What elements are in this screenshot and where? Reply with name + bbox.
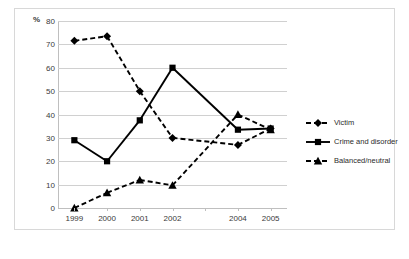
- y-tick-label-30: 30: [33, 133, 55, 142]
- diamond-marker: [305, 117, 331, 129]
- y-tick-label-20: 20: [33, 157, 55, 166]
- y-tick-label-0: 0: [33, 204, 55, 213]
- y-tick-label-50: 50: [33, 87, 55, 96]
- square-marker: [305, 136, 331, 148]
- x-tick-label-2005: 2005: [251, 214, 291, 223]
- y-tick-label-10: 10: [33, 180, 55, 189]
- series-line-victim: [74, 36, 107, 41]
- x-tick-mark-2003: [205, 208, 206, 211]
- series-line-balanced-neutral: [238, 115, 271, 130]
- x-axis-ticks: [58, 208, 287, 212]
- data-point-square-2001: [137, 117, 143, 123]
- series-line-balanced-neutral: [107, 180, 140, 193]
- triangle-marker: [305, 155, 331, 167]
- x-axis-tick-labels: 199920002001200220042005: [58, 214, 287, 226]
- series-line-crime-and-disorder: [107, 120, 140, 161]
- series-line-balanced-neutral: [140, 180, 173, 185]
- series-line-crime-and-disorder: [238, 129, 271, 130]
- x-tick-mark-2000: [107, 208, 108, 211]
- series-line-victim: [107, 36, 140, 91]
- legend-item-victim[interactable]: Victim: [305, 113, 393, 132]
- legend-label: Crime and disorder: [334, 137, 398, 146]
- x-tick-label-2002: 2002: [153, 214, 193, 223]
- series-line-balanced-neutral: [173, 115, 238, 186]
- series-layer: [58, 21, 287, 208]
- x-tick-mark-2005: [271, 208, 272, 211]
- data-point-diamond-2004: [234, 141, 242, 149]
- chart-legend: VictimCrime and disorderBalanced/neutral: [305, 113, 393, 170]
- x-tick-mark-1999: [74, 208, 75, 211]
- y-tick-label-40: 40: [33, 110, 55, 119]
- x-tick-mark-2001: [140, 208, 141, 211]
- series-line-balanced-neutral: [74, 193, 107, 208]
- x-tick-mark-2002: [173, 208, 174, 211]
- data-point-square-2000: [104, 158, 110, 164]
- series-line-victim: [140, 91, 173, 138]
- series-line-crime-and-disorder: [173, 68, 238, 130]
- series-line-victim: [173, 138, 238, 145]
- x-tick-mark-2004: [238, 208, 239, 211]
- series-line-crime-and-disorder: [140, 68, 173, 121]
- data-point-diamond-2000: [103, 32, 111, 40]
- data-point-square-2004: [235, 127, 241, 133]
- y-tick-label-70: 70: [33, 40, 55, 49]
- legend-item-balanced-neutral[interactable]: Balanced/neutral: [305, 151, 393, 170]
- series-line-crime-and-disorder: [74, 140, 107, 161]
- y-tick-label-80: 80: [33, 17, 55, 26]
- series-line-victim: [238, 129, 271, 145]
- data-point-triangle-2004: [234, 110, 242, 118]
- chart-figure: % 01020304050607080 19992000200120022004…: [14, 8, 395, 230]
- data-point-square-2002: [169, 65, 175, 71]
- plot-area: [58, 21, 287, 208]
- legend-label: Balanced/neutral: [334, 156, 390, 165]
- y-axis-tick-labels: 01020304050607080: [27, 21, 55, 208]
- legend-item-crime-and-disorder[interactable]: Crime and disorder: [305, 132, 393, 151]
- legend-label: Victim: [334, 118, 354, 127]
- y-tick-label-60: 60: [33, 63, 55, 72]
- data-point-diamond-1999: [70, 37, 78, 45]
- data-point-square-1999: [71, 137, 77, 143]
- data-point-diamond-2002: [169, 134, 177, 142]
